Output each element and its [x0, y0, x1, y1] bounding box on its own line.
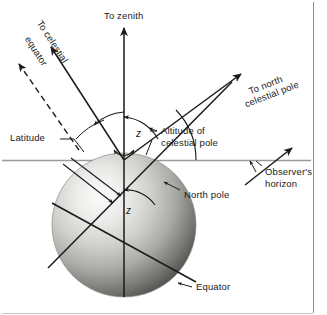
observers-horizon-arrow	[250, 161, 256, 172]
latitude-arc-upper	[94, 112, 124, 125]
observers-horizon-label-line1: Observer's	[265, 166, 312, 177]
zenith-angle-lower-label: z	[126, 205, 131, 216]
observers-horizon-leader	[256, 161, 262, 166]
observers-horizon-label-line2: horizon	[265, 178, 297, 189]
altitude-of-celestial-pole-label-line2: celestial pole	[161, 137, 218, 148]
north-pole-label: North pole	[184, 189, 229, 200]
latitude-label: Latitude	[10, 132, 45, 143]
equator-label: Equator	[196, 281, 230, 292]
to-zenith-label: To zenith	[104, 10, 143, 21]
celestial-sphere-diagram: To zenith To celestial equator To north …	[0, 0, 327, 315]
altitude-of-celestial-pole-label-line1: Altitude of	[161, 125, 205, 136]
zenith-angle-upper-label: z	[136, 128, 141, 139]
equator-leader	[178, 283, 192, 287]
